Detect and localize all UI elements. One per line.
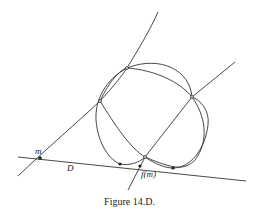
tangent-point-right xyxy=(171,166,174,169)
figure-14d: m D f(m) Figure 14.D. xyxy=(0,0,259,213)
point-fm xyxy=(138,164,141,167)
label-fm: f(m) xyxy=(141,170,156,179)
diagram-canvas xyxy=(0,0,259,213)
intersection-bottom xyxy=(144,156,147,159)
intersection-right xyxy=(191,96,194,99)
point-m xyxy=(38,156,42,160)
left-loop xyxy=(96,68,145,165)
upper-loop xyxy=(100,63,192,101)
tangent-point-left xyxy=(118,162,121,165)
label-D: D xyxy=(67,164,74,173)
intersection-top xyxy=(126,67,129,70)
label-m: m xyxy=(35,147,42,156)
intersection-left xyxy=(99,100,102,103)
figure-caption: Figure 14.D. xyxy=(0,196,259,207)
lower-loop xyxy=(100,97,208,168)
line-D xyxy=(18,157,246,181)
